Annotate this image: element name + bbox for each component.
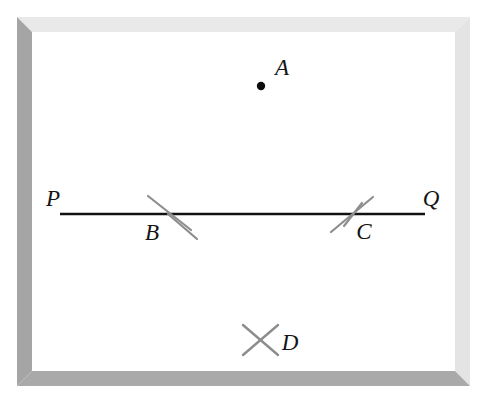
point-a-dot [257,82,265,90]
frame-right-bar [455,17,470,386]
frame-bottom-bar [17,371,470,386]
frame-interior [32,32,455,371]
label-c: C [356,219,372,244]
frame-left-bar [17,17,32,386]
label-p: P [45,186,60,211]
frame-top-bar [17,17,470,32]
label-b: B [145,220,159,245]
label-a: A [273,55,290,80]
label-q: Q [423,186,440,211]
geometry-figure: A P Q B C D [0,0,487,404]
picture-frame [17,17,470,386]
point-a [257,82,265,90]
label-d: D [281,330,299,355]
figure-container: A P Q B C D [0,0,487,404]
